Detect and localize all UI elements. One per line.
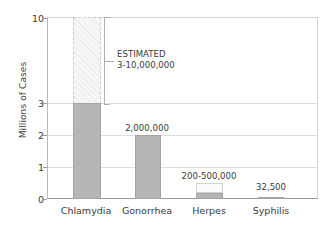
bar-chlamydia-estimate: [73, 17, 101, 104]
bar-gonorrhea: [135, 135, 161, 199]
y-tick-mark-0: [43, 199, 47, 200]
y-tick-label-1: 1: [4, 162, 44, 173]
x-label-gonorrhea: Gonorrhea: [122, 205, 172, 216]
estimate-bracket-pointer: [104, 61, 114, 62]
x-label-chlamydia: Chlamydia: [61, 205, 111, 216]
annotation-herpes: 200-500,000: [181, 171, 236, 182]
bar-herpes-estimate: [196, 183, 223, 193]
bar-chart: Millions of Cases 10 3 2 1 0 ESTIMATED 3…: [0, 0, 336, 232]
y-tick-label-2: 2: [4, 130, 44, 141]
bar-herpes: [196, 193, 223, 199]
annotation-chlamydia-line2: 3-10,000,000: [117, 60, 175, 71]
y-tick-label-0: 0: [4, 194, 44, 205]
annotation-chlamydia: ESTIMATED 3-10,000,000: [117, 49, 175, 71]
y-tick-label-10: 10: [4, 13, 44, 24]
bar-syphilis: [258, 197, 284, 199]
x-label-herpes: Herpes: [192, 205, 226, 216]
annotation-gonorrhea: 2,000,000: [125, 123, 169, 134]
bar-chlamydia: [73, 103, 101, 199]
y-tick-label-3: 3: [4, 98, 44, 109]
annotation-syphilis: 32,500: [256, 182, 286, 193]
annotation-chlamydia-line1: ESTIMATED: [117, 49, 175, 60]
x-label-syphilis: Syphilis: [253, 205, 290, 216]
